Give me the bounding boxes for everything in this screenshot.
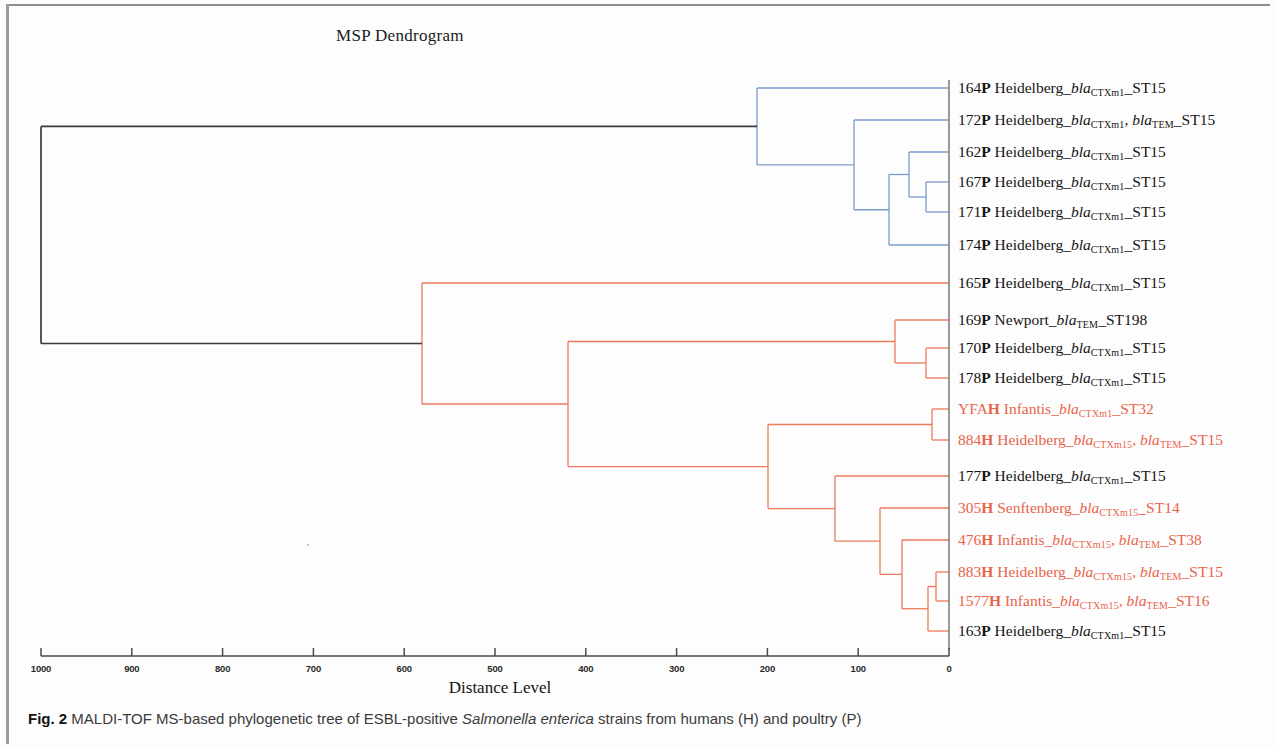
axis-tick-label-600: 600 <box>397 663 412 674</box>
axis-title: Distance Level <box>0 678 1000 698</box>
axis-tick-label-900: 900 <box>124 663 139 674</box>
axis-tick-label-800: 800 <box>215 663 230 674</box>
caption-text-1: MALDI-TOF MS-based phylogenetic tree of … <box>67 710 462 727</box>
axis-tick-label-700: 700 <box>306 663 321 674</box>
axis-tick-label-400: 400 <box>578 663 593 674</box>
axis-svg <box>0 0 1276 700</box>
axis-tick-label-300: 300 <box>669 663 684 674</box>
figure-caption: Fig. 2 MALDI-TOF MS-based phylogenetic t… <box>28 710 1258 729</box>
dendrogram-plot: 164P Heidelberg_blaCTXm1_ST15172P Heidel… <box>0 0 1276 700</box>
caption-figure-number: Fig. 2 <box>28 710 67 727</box>
caption-text-2: strains from humans (H) and poultry (P) <box>594 710 862 727</box>
axis-tick-label-500: 500 <box>487 663 502 674</box>
figure-container: MSP Dendrogram 164P Heidelberg_blaCTXm1_… <box>0 0 1276 748</box>
axis-tick-label-1000: 1000 <box>31 663 51 674</box>
axis-tick-group <box>41 648 949 656</box>
axis-tick-label-100: 100 <box>851 663 866 674</box>
caption-species-name: Salmonella enterica <box>462 710 594 727</box>
axis-tick-label-0: 0 <box>946 663 951 674</box>
axis-tick-label-200: 200 <box>760 663 775 674</box>
distance-axis: 10009008007006005004003002001000 <box>0 0 1276 700</box>
